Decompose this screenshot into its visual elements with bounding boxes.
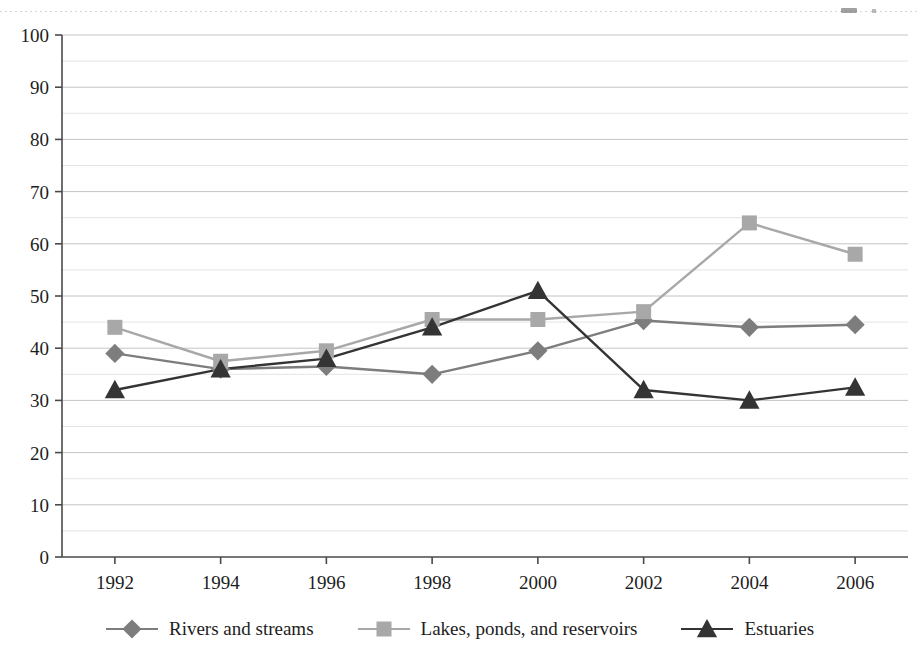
data-point-marker <box>742 215 757 230</box>
line-chart-figure: 1009080706050403020100 19921994199619982… <box>0 0 920 650</box>
data-point-marker <box>848 247 863 262</box>
legend-label: Estuaries <box>744 618 814 640</box>
y-tick-label: 40 <box>30 338 49 359</box>
data-point-marker <box>530 312 545 327</box>
y-tick-label: 80 <box>30 129 49 150</box>
y-tick-label: 60 <box>30 234 49 255</box>
series-line-triangle <box>115 291 855 401</box>
y-tick-label: 0 <box>40 547 50 568</box>
legend-label: Rivers and streams <box>169 618 314 640</box>
legend-item-1[interactable]: Lakes, ponds, and reservoirs <box>358 618 638 640</box>
legend-label: Lakes, ponds, and reservoirs <box>421 618 638 640</box>
x-tick-label: 2006 <box>836 572 874 593</box>
chart-plot-area: 1009080706050403020100 19921994199619982… <box>0 0 920 650</box>
y-tick-label: 90 <box>30 77 49 98</box>
data-point-marker <box>636 304 651 319</box>
x-tick-label: 1998 <box>413 572 451 593</box>
data-point-marker <box>528 341 547 360</box>
y-tick-label: 30 <box>30 390 49 411</box>
x-tick-label: 1994 <box>202 572 241 593</box>
y-tick-label: 50 <box>30 286 49 307</box>
data-point-marker <box>105 344 124 363</box>
x-axis <box>62 557 908 564</box>
x-tick-label: 2004 <box>730 572 769 593</box>
y-axis <box>55 35 62 557</box>
data-point-marker <box>846 315 865 334</box>
data-point-marker <box>107 320 122 335</box>
triangle-marker-icon <box>681 618 733 640</box>
legend-item-0[interactable]: Rivers and streams <box>106 618 314 640</box>
x-tick-label: 1996 <box>307 572 345 593</box>
y-axis-tick-labels: 1009080706050403020100 <box>21 25 50 568</box>
x-axis-tick-labels: 19921994199619982000200220042006 <box>96 572 874 593</box>
chart-legend: Rivers and streamsLakes, ponds, and rese… <box>0 608 920 650</box>
y-tick-label: 100 <box>21 25 50 46</box>
data-point-marker <box>845 377 865 395</box>
data-point-marker <box>423 365 442 384</box>
square-marker-icon <box>358 618 410 640</box>
data-point-marker <box>528 281 548 299</box>
y-tick-label: 10 <box>30 495 49 516</box>
diamond-marker-icon <box>106 618 158 640</box>
x-tick-label: 1992 <box>96 572 134 593</box>
x-tick-label: 2000 <box>519 572 557 593</box>
legend-item-2[interactable]: Estuaries <box>681 618 814 640</box>
x-tick-label: 2002 <box>625 572 663 593</box>
y-tick-label: 20 <box>30 443 49 464</box>
data-point-marker <box>740 318 759 337</box>
data-series-markers <box>105 215 866 408</box>
y-tick-label: 70 <box>30 182 49 203</box>
